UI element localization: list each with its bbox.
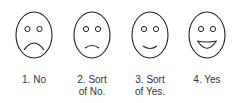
face-option-no: 1. No bbox=[5, 0, 63, 103]
slight-smile-face-icon bbox=[121, 0, 179, 70]
face-label: 1. No bbox=[5, 74, 63, 86]
face-label: 2. Sort of No. bbox=[63, 74, 121, 98]
big-smile-face-icon bbox=[178, 0, 236, 70]
face-option-sort-of-no: 2. Sort of No. bbox=[63, 0, 121, 103]
frown-face-icon bbox=[5, 0, 63, 70]
face-option-yes: 4. Yes bbox=[178, 0, 236, 103]
face-label: 3. Sort of Yes. bbox=[121, 74, 179, 98]
face-option-sort-of-yes: 3. Sort of Yes. bbox=[121, 0, 179, 103]
face-label: 4. Yes bbox=[178, 74, 236, 86]
slight-frown-face-icon bbox=[63, 0, 121, 70]
